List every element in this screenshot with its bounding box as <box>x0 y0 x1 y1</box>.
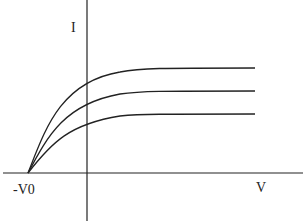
y-axis-label: I <box>71 20 76 35</box>
x-axis-label: V <box>256 180 266 195</box>
v0-label: -V0 <box>13 182 35 197</box>
curve-mid <box>28 91 255 173</box>
curve-low <box>28 114 255 173</box>
curve-high <box>28 68 255 173</box>
iv-characteristic-diagram: I V -V0 <box>0 0 304 221</box>
